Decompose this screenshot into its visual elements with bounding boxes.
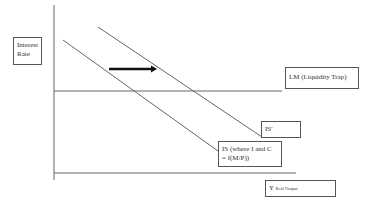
- is-shifted-label: IS': [261, 121, 301, 138]
- is-shifted-curve: [98, 27, 262, 137]
- x-axis-label-main: Y: [269, 184, 274, 192]
- is-label-line2: = f(M/P)): [222, 154, 278, 163]
- lm-label: LM (Liquidity Trap): [285, 67, 359, 89]
- is-label: IS (where I and C = f(M/P)): [218, 141, 282, 167]
- lm-label-text: LM (Liquidity Trap): [289, 73, 347, 81]
- x-axis-label-sub: Real Output: [276, 186, 298, 191]
- is-curve: [63, 40, 218, 151]
- is-label-line1: IS (where I and C: [222, 145, 278, 154]
- y-axis-label-text: Interest Rate: [17, 41, 38, 58]
- x-axis-label: Y Real Output: [265, 180, 336, 197]
- islm-diagram: [0, 0, 366, 205]
- is-shifted-label-text: IS': [265, 125, 273, 133]
- y-axis-label: Interest Rate: [13, 37, 42, 65]
